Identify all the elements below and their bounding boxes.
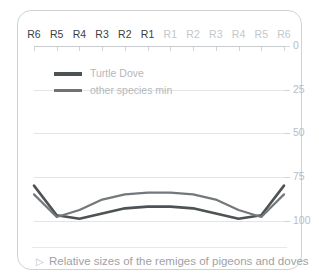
legend-line-icon (54, 89, 82, 92)
figure-caption: ▷ Relative sizes of the remiges of pigeo… (36, 254, 291, 269)
x-axis-tick (284, 47, 285, 51)
x-axis-label: R6 (22, 28, 46, 41)
y-axis-tick (284, 133, 290, 134)
legend-label: Turtle Dove (90, 67, 144, 80)
y-axis-label: 0 (293, 40, 299, 51)
x-axis-label: R1 (136, 28, 160, 41)
legend-item: other species min (54, 82, 234, 99)
x-axis-label: R1 (158, 28, 182, 41)
caption-label: Relative sizes of the remiges of pigeons… (49, 254, 309, 268)
x-axis-label: R5 (45, 28, 69, 41)
legend-line-icon (54, 72, 82, 76)
series-line (34, 193, 284, 217)
y-axis-tick (284, 46, 290, 47)
figure-card: R6R5R4R3R2R1R1R2R3R4R5R6 0255075100 Turt… (17, 10, 302, 270)
y-axis-label: 50 (293, 127, 305, 138)
x-axis-label: R3 (204, 28, 228, 41)
x-axis-label: R5 (249, 28, 273, 41)
y-axis-tick (284, 177, 290, 178)
caption-triangle-icon: ▷ (36, 255, 44, 269)
y-axis-label: 100 (293, 215, 311, 226)
y-axis-tick (284, 90, 290, 91)
chart-legend: Turtle Doveother species min (54, 65, 234, 99)
caption-divider (32, 247, 287, 248)
series-line (34, 186, 284, 219)
legend-item: Turtle Dove (54, 65, 234, 82)
x-axis-label: R2 (113, 28, 137, 41)
x-axis-label: R2 (181, 28, 205, 41)
x-axis-label: R3 (90, 28, 114, 41)
y-axis-label: 25 (293, 84, 305, 95)
legend-label: other species min (90, 84, 172, 97)
x-axis-labels: R6R5R4R3R2R1R1R2R3R4R5R6 (34, 28, 284, 44)
chart-figure: R6R5R4R3R2R1R1R2R3R4R5R6 0255075100 Turt… (18, 11, 303, 239)
x-axis-label: R4 (67, 28, 91, 41)
y-axis-label: 75 (293, 171, 305, 182)
y-axis-tick (284, 221, 290, 222)
x-axis-label: R4 (227, 28, 251, 41)
